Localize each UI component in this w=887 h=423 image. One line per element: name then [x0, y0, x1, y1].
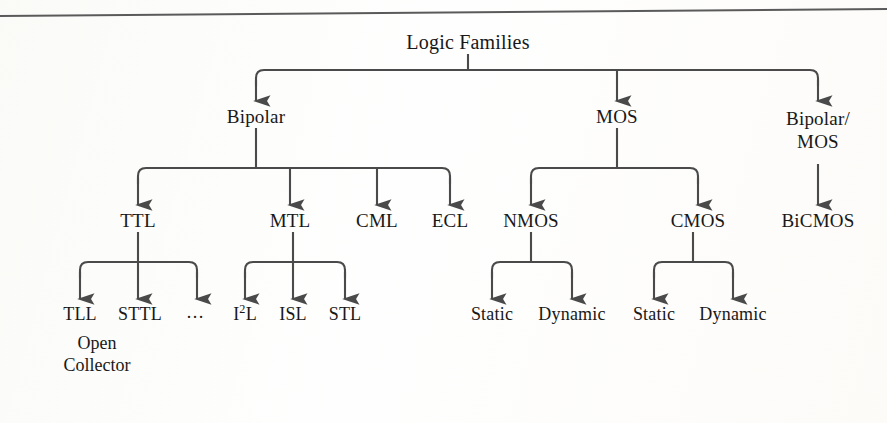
edge-root-bar — [256, 70, 818, 86]
node-ttl-more: … — [186, 303, 206, 322]
node-cml: CML — [356, 211, 398, 232]
node-mtl: MTL — [270, 211, 311, 232]
node-stl: STL — [329, 305, 362, 324]
node-isl: ISL — [279, 305, 307, 324]
top-rule — [0, 9, 887, 16]
annotation-open-collector-line1: Open — [58, 333, 136, 355]
node-bipolar-mos-line1: Bipolar/ — [786, 107, 850, 130]
node-cmos: CMOS — [671, 211, 726, 232]
node-bipolar: Bipolar — [227, 107, 285, 128]
node-mos: MOS — [596, 107, 638, 128]
edge-bipolar-bar — [138, 168, 450, 184]
node-tll: TLL — [63, 305, 97, 324]
node-bipolar-mos-line2: MOS — [786, 130, 850, 153]
node-ttl: TTL — [120, 211, 155, 232]
node-cmos-dynamic: Dynamic — [699, 305, 766, 324]
node-nmos-static: Static — [471, 305, 513, 324]
edge-nmos-bar — [492, 262, 572, 278]
edge-mtl-bar — [245, 262, 345, 278]
node-nmos: NMOS — [503, 211, 559, 232]
node-cmos-static: Static — [633, 305, 675, 324]
node-bipolar-mos: Bipolar/ MOS — [786, 107, 850, 153]
figure-canvas: Logic Families Bipolar MOS Bipolar/ MOS … — [0, 0, 887, 423]
node-logic-families: Logic Families — [406, 32, 529, 54]
node-sttl: STTL — [118, 305, 162, 324]
node-nmos-dynamic: Dynamic — [538, 305, 605, 324]
node-ecl: ECL — [432, 211, 469, 232]
edge-mos-bar — [531, 168, 698, 184]
node-i2l-tail: L — [246, 304, 257, 324]
annotation-open-collector-line2: Collector — [40, 355, 154, 377]
node-bicmos: BiCMOS — [781, 211, 854, 232]
edge-cmos-bar — [654, 262, 733, 278]
annotation-open-collector: Open Collector — [40, 333, 154, 377]
node-i2l: I2L — [233, 305, 257, 324]
